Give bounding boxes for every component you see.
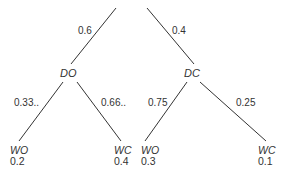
edge-do-to-wc <box>77 82 121 141</box>
edge-do-to-wo <box>19 82 63 141</box>
edge-root-to-dc <box>147 8 194 64</box>
edge-label-do-wc: 0.66.. <box>101 97 126 108</box>
leaf-dc-wc: WC 0.1 <box>258 145 276 167</box>
edge-root-to-do <box>71 8 116 64</box>
edge-label-root-dc: 0.4 <box>172 25 186 36</box>
edge-dc-to-wo <box>145 82 187 141</box>
leaf-probability: 0.3 <box>141 156 159 167</box>
edge-label-dc-wc: 0.25 <box>236 97 255 108</box>
leaf-probability: 0.2 <box>10 156 28 167</box>
leaf-dc-wo: WO 0.3 <box>141 145 159 167</box>
leaf-probability: 0.4 <box>114 156 132 167</box>
edge-label-do-wo: 0.33.. <box>14 97 39 108</box>
leaf-probability: 0.1 <box>258 156 276 167</box>
edge-dc-to-wc <box>200 82 266 141</box>
node-dc: DC <box>184 67 200 79</box>
leaf-do-wc: WC 0.4 <box>114 145 132 167</box>
node-do: DO <box>60 67 77 79</box>
edge-label-dc-wo: 0.75 <box>148 97 167 108</box>
edge-label-root-do: 0.6 <box>78 25 92 36</box>
leaf-do-wo: WO 0.2 <box>10 145 28 167</box>
